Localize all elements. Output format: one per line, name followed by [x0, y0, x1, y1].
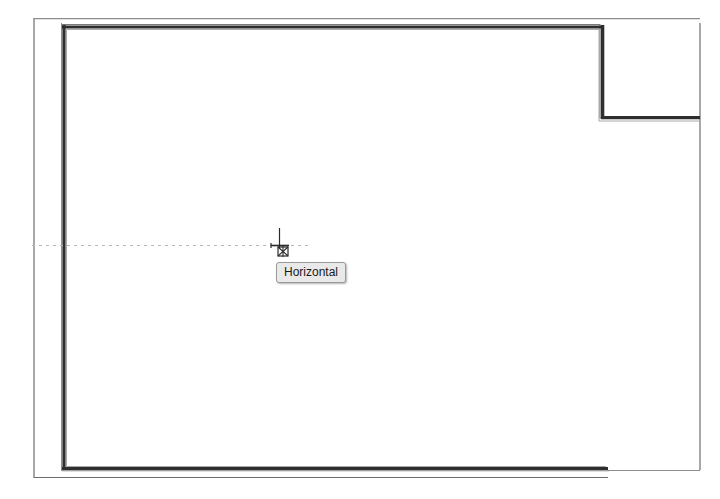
cad-canvas-root[interactable]: Horizontal	[0, 0, 720, 499]
inner-wall-outline	[62, 23, 701, 471]
snap-mode-tooltip: Horizontal	[276, 262, 346, 283]
inner-wall-inner-face-left	[67, 30, 607, 467]
floor-plan-drawing[interactable]	[0, 0, 720, 499]
